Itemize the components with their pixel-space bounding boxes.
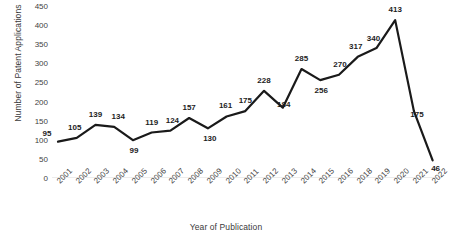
data-point-label: 99 bbox=[129, 146, 138, 155]
data-point-label: 161 bbox=[219, 101, 232, 110]
data-point-label: 175 bbox=[239, 96, 252, 105]
data-point-label: 270 bbox=[333, 59, 346, 68]
data-point-label: 119 bbox=[145, 117, 158, 126]
patent-applications-line-chart: Number of Patent Applications 0501001502… bbox=[0, 0, 452, 239]
data-point-label: 124 bbox=[166, 115, 179, 124]
data-point-label: 130 bbox=[203, 134, 216, 143]
y-axis-tick-labels: 050100150200250300350400450 bbox=[16, 6, 48, 178]
plot-area bbox=[52, 6, 442, 178]
x-axis-title: Year of Publication bbox=[0, 222, 452, 232]
y-tick-label: 150 bbox=[35, 116, 48, 125]
data-point-label: 256 bbox=[315, 86, 328, 95]
data-point-label: 139 bbox=[89, 109, 102, 118]
data-point-label: 157 bbox=[182, 102, 195, 111]
data-point-label: 105 bbox=[68, 122, 81, 131]
y-tick-label: 300 bbox=[35, 59, 48, 68]
x-axis-tick-labels: 2001200220032004200520062007200820092010… bbox=[52, 179, 442, 219]
data-point-label: 46 bbox=[431, 164, 440, 173]
data-point-label: 134 bbox=[112, 111, 125, 120]
data-point-label: 184 bbox=[277, 99, 290, 108]
data-point-label: 317 bbox=[349, 41, 362, 50]
y-tick-label: 200 bbox=[35, 97, 48, 106]
y-tick-label: 450 bbox=[35, 2, 48, 11]
data-point-label: 285 bbox=[295, 54, 308, 63]
y-tick-label: 400 bbox=[35, 21, 48, 30]
data-point-label: 340 bbox=[367, 34, 380, 43]
data-point-label: 228 bbox=[257, 75, 270, 84]
data-point-label: 95 bbox=[43, 128, 52, 137]
data-point-label: 413 bbox=[388, 5, 401, 14]
y-tick-label: 250 bbox=[35, 78, 48, 87]
y-tick-label: 0 bbox=[44, 174, 48, 183]
y-tick-label: 350 bbox=[35, 40, 48, 49]
y-tick-label: 50 bbox=[39, 154, 48, 163]
line-series-svg bbox=[52, 6, 442, 178]
data-point-label: 175 bbox=[410, 110, 423, 119]
